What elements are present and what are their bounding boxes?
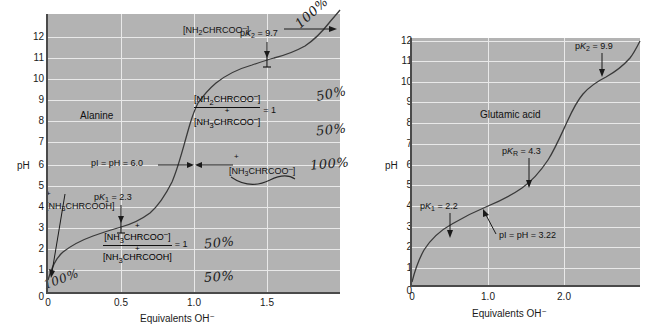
ratio-pk2-equals: = 1 bbox=[260, 105, 276, 115]
x-tick-label: 1.5 bbox=[247, 298, 287, 308]
species-label-zwitterion: +[NH3CHRCOO–] bbox=[229, 152, 295, 177]
titration-curve-alanine bbox=[48, 10, 340, 280]
y-tick-label: 9 bbox=[22, 95, 44, 105]
curve-layer-alanine bbox=[48, 14, 340, 292]
hand-note-pk1-upper: 50% bbox=[203, 233, 235, 251]
hand-note-pk1-lower: 50% bbox=[204, 268, 235, 285]
x-axis-title-right: Equivalents OH⁻ bbox=[472, 308, 547, 319]
pi-leader-line-right bbox=[486, 215, 496, 234]
chart-title-alanine: Alanine bbox=[80, 110, 113, 121]
ratio-block-pk2: [NH2CHRCOO–] + [NH3CHRCOO–] = 1 bbox=[194, 91, 276, 130]
y-axis-line-left bbox=[46, 14, 48, 294]
y-tick-label: 6 bbox=[22, 160, 44, 170]
x-tick-label: 1.0 bbox=[174, 298, 214, 308]
species-label-protonated: +[NH3CHRCOOH] bbox=[46, 189, 114, 212]
pk1-arrowhead bbox=[118, 216, 124, 223]
pk2-arrowhead-right bbox=[599, 69, 605, 77]
x-tick-label: 2.0 bbox=[544, 292, 584, 302]
pk1-annotation-label-right: pK1 = 2.2 bbox=[420, 201, 458, 214]
pi-annotation-label-right: pI = pH = 3.22 bbox=[499, 230, 556, 241]
y-tick-label: 3 bbox=[22, 223, 44, 233]
anion-species-arrowhead bbox=[329, 26, 337, 32]
y-tick-label: 10 bbox=[390, 77, 412, 87]
y-tick-label: 5 bbox=[22, 181, 44, 191]
y-tick-label: 11 bbox=[22, 53, 44, 63]
ratio-pk1-numerator: [NH3CHRCOO–] bbox=[103, 229, 172, 245]
y-tick-label: 2 bbox=[390, 242, 412, 252]
y-tick-label: 8 bbox=[22, 116, 44, 126]
chart-panel-alanine: pH 12 11 10 9 8 7 6 5 4 3 2 1 0 bbox=[0, 0, 345, 329]
y-tick-label: 9 bbox=[390, 97, 412, 107]
pk2-annotation-label-right: pK2 = 9.9 bbox=[575, 41, 613, 54]
plot-area-alanine: Alanine pK1 = 2.3 pK2 = 9.7 pI = pH = 6.… bbox=[48, 14, 340, 292]
ratio-pk1-equals: = 1 bbox=[172, 239, 188, 249]
figure-root: pH 12 11 10 9 8 7 6 5 4 3 2 1 0 bbox=[0, 0, 649, 329]
y-tick-label: 6 bbox=[390, 160, 412, 170]
curve-layer-glutamic-acid bbox=[412, 38, 640, 285]
y-tick-label: 5 bbox=[390, 180, 412, 190]
pkr-annotation-label: pKR = 4.3 bbox=[502, 146, 541, 159]
y-tick-label: 4 bbox=[390, 201, 412, 211]
titration-curve-glutamic-acid bbox=[412, 41, 640, 282]
ratio-pk1-denominator: [NH3CHRCOOH] bbox=[103, 252, 172, 265]
y-tick-label: 1 bbox=[390, 263, 412, 273]
y-tick-label: 8 bbox=[390, 118, 412, 128]
y-tick-label: 12 bbox=[22, 32, 44, 42]
x-tick-label: 0.5 bbox=[101, 298, 141, 308]
chart-panel-glutamic-acid: pH 12 11 10 9 8 7 6 5 4 3 2 1 0 bbox=[380, 0, 649, 329]
x-axis-line-right bbox=[410, 285, 640, 287]
pi-arrowhead-left bbox=[195, 162, 202, 168]
x-tick-label: 0 bbox=[28, 298, 68, 308]
ratio-pk2-denominator: [NH3CHRCOO–] bbox=[194, 114, 260, 130]
ratio-pk2-numerator: [NH2CHRCOO–] bbox=[194, 91, 260, 107]
chart-title-glutamic-acid: Glutamic acid bbox=[480, 109, 541, 120]
x-axis-title-left: Equivalents OH⁻ bbox=[140, 313, 215, 324]
y-tick-label: 1 bbox=[22, 265, 44, 275]
pi-arrowhead-right bbox=[187, 162, 194, 168]
x-axis-line-left bbox=[46, 292, 340, 294]
x-tick-label: 1.0 bbox=[468, 292, 508, 302]
pk2-arrowhead bbox=[264, 51, 270, 58]
hand-note-pk2-lower: 50% bbox=[315, 120, 347, 138]
x-tick-label: 0 bbox=[392, 292, 432, 302]
ratio-block-pk1: + [NH3CHRCOO–] + [NH3CHRCOOH] = 1 bbox=[103, 223, 187, 265]
y-tick-label: 3 bbox=[390, 222, 412, 232]
y-tick-label: 7 bbox=[22, 137, 44, 147]
hand-note-pi: 100% bbox=[309, 154, 349, 172]
pi-annotation-label: pI = pH = 6.0 bbox=[91, 158, 143, 169]
y-tick-label: 12 bbox=[390, 36, 412, 46]
species-label-anion: [NH2CHRCOO–] bbox=[183, 23, 249, 36]
y-axis-line-right bbox=[410, 38, 412, 287]
y-tick-label: 7 bbox=[390, 139, 412, 149]
y-tick-label: 10 bbox=[22, 74, 44, 84]
y-tick-label: 11 bbox=[390, 56, 412, 66]
pi-arrowhead-right bbox=[483, 209, 489, 217]
y-tick-label: 4 bbox=[22, 202, 44, 212]
plot-area-glutamic-acid: Glutamic acid pK1 = 2.2 pKR = 4.3 pK2 = … bbox=[412, 38, 640, 285]
y-tick-label: 2 bbox=[22, 244, 44, 254]
pk1-arrowhead-right bbox=[447, 230, 453, 238]
